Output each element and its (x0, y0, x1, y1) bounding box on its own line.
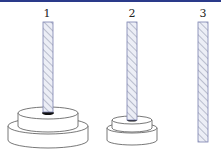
peg-1-disks[interactable] (8, 107, 88, 148)
peg-2[interactable] (127, 22, 137, 120)
peg-1[interactable] (43, 22, 53, 112)
peg-3[interactable] (198, 22, 208, 142)
hanoi-drawing (0, 0, 221, 155)
hanoi-diagram: 1 2 3 (0, 0, 221, 155)
